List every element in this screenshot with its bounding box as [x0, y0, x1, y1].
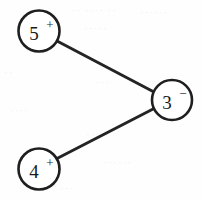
node-4-plus[interactable]: 4 +	[19, 149, 60, 190]
edge-node4-node3	[58, 108, 155, 158]
node-3-minus-value: 3	[162, 92, 172, 113]
node-3-minus[interactable]: 3 −	[152, 80, 192, 120]
node-5-plus[interactable]: 5 +	[19, 11, 60, 52]
edge-node5-node3	[57, 41, 154, 92]
node-5-plus-value: 5	[29, 23, 39, 44]
node-3-minus-sign: −	[179, 86, 186, 101]
node-4-plus-value: 4	[29, 161, 39, 182]
node-4-plus-sign: +	[46, 155, 53, 170]
node-5-plus-sign: +	[46, 17, 53, 32]
signed-graph-diagram: 5 + 3 − 4 +	[0, 0, 202, 199]
figure-canvas: ·· ···· ································…	[0, 0, 202, 199]
